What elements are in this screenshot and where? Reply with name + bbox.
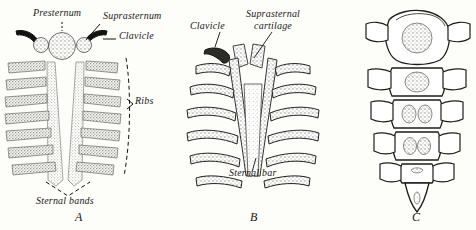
label-suprasternal-line2: cartilage bbox=[254, 20, 292, 31]
clavicle-left-shape bbox=[16, 30, 37, 42]
figure-root: Presternum Suprasternum Clavicle Ribs St… bbox=[0, 0, 476, 230]
sternebra-2-center-right bbox=[418, 105, 432, 123]
sternebra-4-shape bbox=[399, 164, 435, 183]
sternebra-1-costal-right bbox=[443, 69, 466, 90]
suprasternum-left-shape bbox=[34, 38, 49, 53]
sternebra-3-costal-right bbox=[439, 133, 460, 154]
manubrium-facet-left bbox=[366, 22, 388, 41]
suprasternal-cartilage-right-shape bbox=[250, 44, 265, 68]
label-presternum: Presternum bbox=[33, 8, 81, 19]
label-clavicle-a: Clavicle bbox=[119, 31, 154, 42]
sternebra-2-costal-right bbox=[441, 101, 463, 122]
label-suprasternal-cartilage: Suprasternal cartilage bbox=[246, 8, 300, 31]
caption-panel-c: C bbox=[412, 210, 420, 225]
sternebra-1-costal-left bbox=[368, 69, 391, 90]
sternebra-2-shape bbox=[391, 100, 443, 128]
clavicle-b-shape bbox=[204, 48, 230, 63]
label-ribs: Ribs bbox=[135, 96, 154, 107]
sternebra-2-center-left bbox=[402, 105, 416, 123]
sternebra-2-costal-left bbox=[371, 101, 393, 122]
label-sternal-bar: Sternal bar bbox=[229, 168, 276, 179]
sternebra-4-center bbox=[411, 168, 423, 173]
presternum-shape bbox=[49, 33, 76, 60]
manubrium-ossification-center bbox=[402, 23, 432, 53]
sternebra-3-shape bbox=[393, 132, 441, 160]
ribs-brace-line bbox=[124, 58, 130, 176]
xiphoid-ossification-center bbox=[414, 192, 420, 204]
panel-c-drawing bbox=[366, 10, 470, 212]
label-suprasternum: Suprasternum bbox=[103, 11, 162, 22]
clavicle-b-leader bbox=[215, 32, 220, 47]
panel-a-drawing bbox=[5, 22, 133, 196]
sternebra-3-center-left bbox=[404, 138, 417, 155]
manubrium-facet-right bbox=[448, 22, 470, 41]
sternal-bands-leader bbox=[46, 182, 90, 196]
caption-panel-b: B bbox=[250, 210, 257, 225]
sternebra-4-costal-right bbox=[433, 163, 454, 182]
label-clavicle-b: Clavicle bbox=[190, 21, 225, 32]
sternebra-3-costal-left bbox=[374, 133, 395, 154]
sternebra-3-center-right bbox=[418, 138, 431, 155]
label-sternal-bands: Sternal bands bbox=[36, 196, 94, 207]
panel-b-drawing bbox=[187, 32, 319, 188]
label-suprasternal-line1: Suprasternal bbox=[246, 8, 300, 19]
suprasternum-right-shape bbox=[77, 38, 92, 53]
sternebra-4-costal-left bbox=[380, 163, 401, 182]
caption-panel-a: A bbox=[75, 210, 82, 225]
sternebra-1-ossification-center bbox=[405, 72, 429, 92]
